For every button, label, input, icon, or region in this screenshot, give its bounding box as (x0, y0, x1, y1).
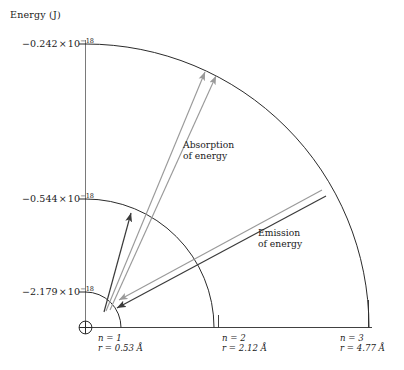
energy-label-n2: −0.544×10−18 (22, 193, 94, 204)
excitation-arrow-group (104, 213, 131, 312)
orbit-label-n1-quantum-number: n = 1 (98, 333, 143, 343)
energy-label-n3-exponent: −18 (80, 37, 94, 45)
bohr-energy-level-figure: Energy (J) −0.242×10−18 −0.544×10−18 −2.… (0, 0, 404, 370)
annotation-emission: Emission of energy (258, 228, 302, 250)
orbit-label-n2-quantum-number: n = 2 (222, 333, 267, 343)
annotation-absorption: Absorption of energy (183, 140, 234, 162)
absorption-arrows-group (106, 72, 216, 311)
orbit-label-n3-radius: r = 4.77 Å (340, 343, 385, 353)
energy-label-n3-base: 10 (68, 38, 80, 49)
annotation-emission-line2: of energy (258, 239, 302, 250)
energy-label-n1-mantissa: −2.179 (22, 286, 58, 297)
energy-label-n3-mantissa: −0.242 (22, 38, 58, 49)
energy-label-n2-times: × (58, 193, 68, 204)
axes-group (86, 40, 373, 331)
energy-label-n2-exponent: −18 (80, 192, 94, 200)
annotation-absorption-line2: of energy (183, 151, 234, 162)
energy-label-n3: −0.242×10−18 (22, 38, 94, 49)
orbit-label-n1-radius: r = 0.53 Å (98, 343, 143, 353)
energy-label-n1-exponent: −18 (80, 285, 94, 293)
radius-drop-lines (219, 300, 369, 328)
orbit-label-n3: n = 3 r = 4.77 Å (340, 333, 385, 353)
orbit-arc-n3 (86, 44, 370, 328)
energy-label-n1-times: × (58, 286, 68, 297)
orbit-arcs-group (86, 44, 370, 328)
energy-label-n1-base: 10 (68, 286, 80, 297)
orbit-label-n2: n = 2 r = 2.12 Å (222, 333, 267, 353)
absorption-arrow-1 (106, 72, 205, 311)
level-tick-marks (79, 44, 86, 292)
nucleus-symbol (79, 321, 92, 334)
energy-label-n3-times: × (58, 38, 68, 49)
orbit-label-n3-quantum-number: n = 3 (340, 333, 385, 343)
emission-arrow-2 (117, 196, 326, 308)
energy-label-n2-mantissa: −0.544 (22, 193, 58, 204)
axis-title-energy: Energy (J) (10, 9, 61, 20)
orbit-label-n2-radius: r = 2.12 Å (222, 343, 267, 353)
orbit-label-n1: n = 1 r = 0.53 Å (98, 333, 143, 353)
energy-label-n1: −2.179×10−18 (22, 286, 94, 297)
absorption-arrow-2 (110, 76, 216, 310)
figure-canvas (0, 0, 404, 370)
energy-label-n2-base: 10 (68, 193, 80, 204)
excitation-arrow-n1-to-n2 (104, 213, 131, 312)
